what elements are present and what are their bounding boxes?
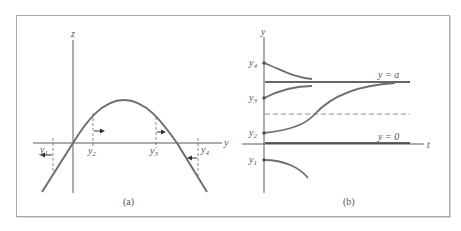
- panel-a: z y y1 y2 y3 y4 (a): [33, 28, 229, 208]
- point-y1: [262, 158, 266, 162]
- y-axis-label-b: y: [260, 26, 266, 37]
- point-y4: [262, 61, 266, 65]
- point-y3: [262, 96, 266, 100]
- caption-b: (b): [343, 196, 355, 208]
- caption-a: (a): [123, 196, 134, 208]
- trajectory-y4: [264, 63, 312, 79]
- y3-label-a: y3: [149, 145, 158, 158]
- y3-label-b: y3: [248, 92, 257, 105]
- panel-b: y t y = a y = 0 y4 y3 y2 y1 (b): [242, 26, 430, 208]
- y-axis-label-a: y: [223, 137, 229, 148]
- y4-label-b: y4: [248, 57, 257, 70]
- trajectory-y1: [264, 160, 308, 178]
- y1-label-b: y1: [248, 154, 257, 167]
- trajectory-y3: [264, 86, 312, 98]
- y2-label-a: y2: [87, 145, 96, 158]
- y2-label-b: y2: [248, 127, 257, 140]
- figure-canvas: z y y1 y2 y3 y4 (a) y t y = a: [0, 0, 461, 231]
- point-y2: [262, 131, 266, 135]
- y3-arrowhead-icon: [161, 130, 166, 135]
- t-axis-label: t: [427, 139, 430, 150]
- equilibrium-a-label: y = a: [377, 69, 399, 80]
- y2-arrowhead-icon: [100, 129, 105, 134]
- equilibrium-zero-label: y = 0: [377, 131, 399, 142]
- z-curve: [42, 100, 207, 192]
- y4-label-a: y4: [200, 144, 209, 157]
- z-axis-label: z: [70, 28, 75, 39]
